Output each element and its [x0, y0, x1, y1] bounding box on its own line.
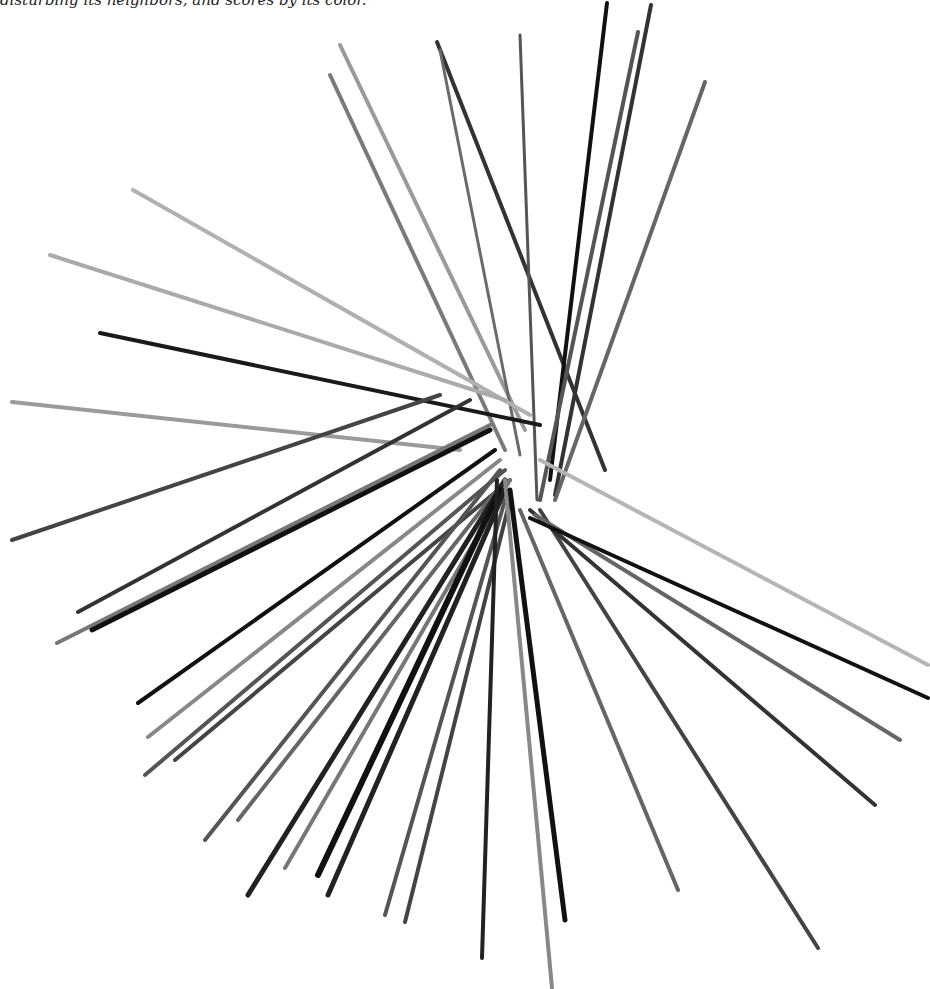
- stick: [50, 255, 505, 400]
- stick: [530, 518, 928, 698]
- stick: [540, 510, 818, 948]
- stick: [555, 82, 705, 500]
- stick: [555, 5, 651, 495]
- pickup-sticks-photo: [0, 0, 930, 989]
- stick: [340, 45, 525, 430]
- stick: [535, 515, 900, 740]
- stick: [330, 75, 505, 450]
- stick: [520, 35, 537, 500]
- stick-layer: [12, 3, 928, 988]
- stick: [505, 480, 552, 988]
- stick: [540, 460, 928, 665]
- stick: [248, 480, 505, 895]
- stick: [12, 395, 440, 540]
